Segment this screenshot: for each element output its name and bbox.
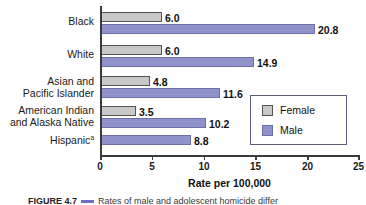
x-tick-label-15: 15 (241, 161, 271, 172)
caption-rule-icon (81, 200, 94, 203)
bar-value-white-female: 6.0 (165, 45, 180, 57)
category-label-line: Asian and (47, 75, 94, 87)
legend-item-male: Male (262, 124, 303, 136)
x-tick-label-10: 10 (189, 161, 219, 172)
legend-label-male: Male (280, 124, 303, 136)
bar-american-indian-alaska-native-male (100, 118, 206, 128)
x-tick-15 (255, 155, 257, 160)
x-axis-title: Rate per 100,000 (100, 177, 359, 189)
bar-value-hispanic-male: 8.8 (194, 135, 209, 147)
bar-american-indian-alaska-native-female (100, 106, 136, 116)
figure-caption: FIGURE 4.7Rates of male and adolescent h… (28, 196, 366, 205)
bar-value-black-female: 6.0 (165, 12, 180, 24)
category-label-line: White (67, 48, 94, 60)
x-tick-0 (100, 155, 102, 160)
bar-value-american-indian-alaska-native-male: 10.2 (209, 118, 229, 130)
x-tick-5 (152, 155, 154, 160)
category-label-white: White (67, 49, 94, 61)
category-label-line: Pacific Islander (23, 88, 94, 100)
x-tick-20 (307, 155, 309, 160)
category-label-line: and Alaska Native (10, 117, 94, 129)
legend-label-female: Female (280, 104, 315, 116)
x-tick-25 (358, 155, 360, 160)
category-label-line: Hispanic (50, 134, 90, 146)
legend-item-female: Female (262, 104, 315, 116)
figure-caption-text: Rates of male and adolescent homicide di… (98, 196, 278, 205)
bar-value-asian-pacific-islander-female: 4.8 (153, 76, 168, 88)
bar-white-male (100, 57, 254, 67)
category-label-hispanic: Hispanica (50, 135, 94, 147)
bar-black-male (100, 24, 315, 34)
legend: Female Male (250, 95, 347, 145)
bar-black-female (100, 12, 162, 22)
x-tick-label-25: 25 (344, 161, 366, 172)
bar-hispanic-male (100, 135, 191, 145)
chart-figure: Black White Asian and Pacific Islander A… (0, 0, 366, 205)
bar-asian-pacific-islander-female (100, 76, 150, 86)
bar-asian-pacific-islander-male (100, 88, 220, 98)
category-label-line: Black (68, 15, 94, 27)
figure-number: FIGURE 4.7 (28, 196, 77, 205)
footnote-marker: a (90, 134, 94, 141)
x-tick-label-5: 5 (137, 161, 167, 172)
category-label-american-indian-alaska-native: American Indian and Alaska Native (10, 105, 94, 128)
y-axis-line (100, 6, 102, 156)
bar-white-female (100, 45, 162, 55)
category-label-black: Black (68, 16, 94, 28)
bar-value-american-indian-alaska-native-female: 3.5 (139, 106, 154, 118)
legend-swatch-male (262, 125, 273, 136)
x-axis-line (100, 155, 359, 157)
bar-value-asian-pacific-islander-male: 11.6 (223, 88, 243, 100)
category-label-asian-pacific-islander: Asian and Pacific Islander (23, 76, 94, 99)
x-tick-label-0: 0 (85, 161, 115, 172)
category-label-line: American Indian (18, 104, 94, 116)
legend-swatch-female (262, 105, 273, 116)
bar-value-white-male: 14.9 (257, 57, 277, 69)
bar-value-black-male: 20.8 (318, 24, 338, 36)
x-tick-10 (204, 155, 206, 160)
x-tick-label-20: 20 (293, 161, 323, 172)
